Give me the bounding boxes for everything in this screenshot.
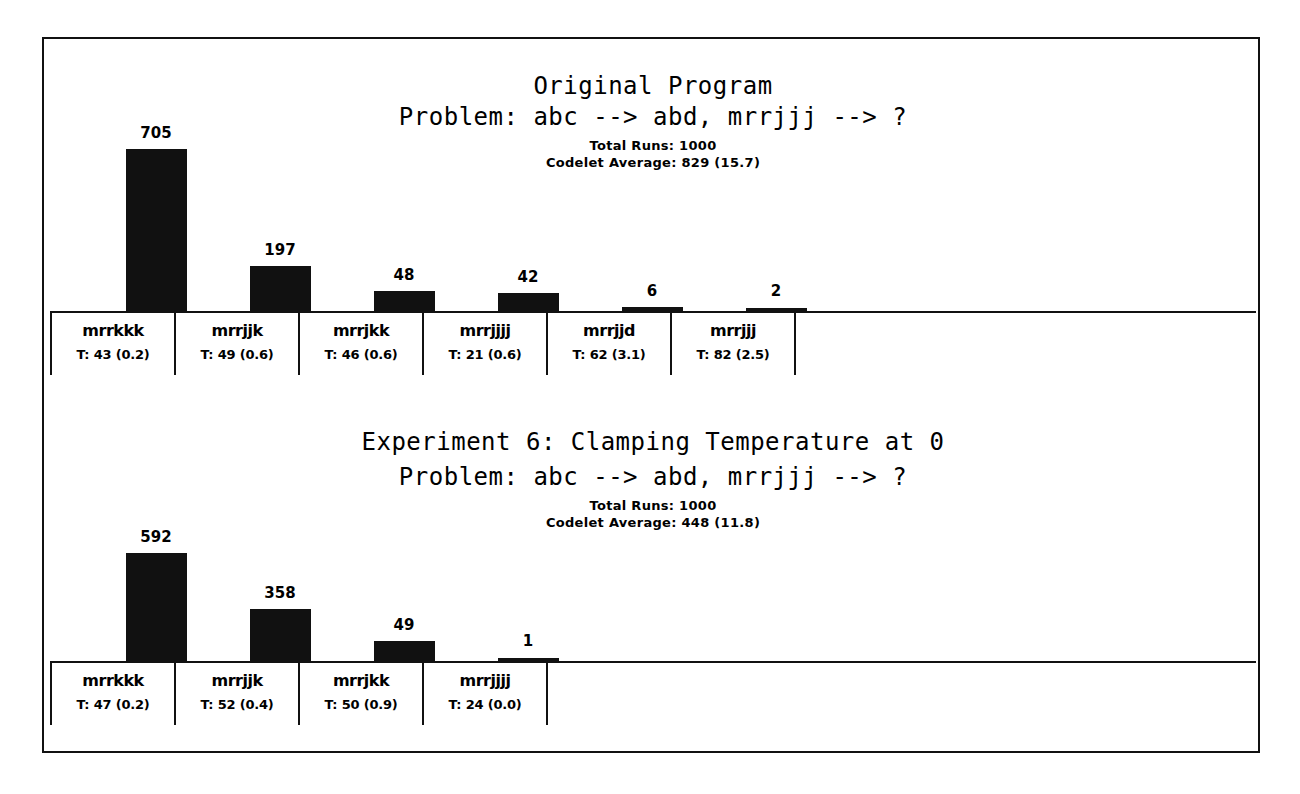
bar-value-label: 49 [344,616,464,634]
bar-value-label: 592 [96,528,216,546]
bar-value-label: 358 [220,584,340,602]
label-cell-answer: mrrjjd [548,321,670,340]
bar [374,291,435,311]
label-cell-temperature: T: 43 (0.2) [52,347,174,362]
label-cell-answer: mrrkkk [52,321,174,340]
bar-value-label: 2 [716,282,836,300]
label-cell-answer: mrrjjk [176,321,298,340]
bar [250,266,311,311]
chart-panel-experiment-6: Experiment 6: Clamping Temperature at 0 … [44,389,1262,751]
label-cell: mrrjjk T: 52 (0.4) [174,663,298,725]
label-cell: mrrjjjj T: 21 (0.6) [422,313,546,375]
label-cell-temperature: T: 47 (0.2) [52,697,174,712]
plot-area-2: 592 358 49 1 [44,389,1262,663]
bar-value-label: 1 [468,632,588,650]
bar [374,641,435,661]
label-cell-answer: mrrjkk [300,671,422,690]
label-cell-answer: mrrjjj [672,321,794,340]
label-cell-temperature: T: 49 (0.6) [176,347,298,362]
label-cell-answer: mrrjjk [176,671,298,690]
label-table-right-edge [794,313,796,375]
label-cell: mrrjjk T: 49 (0.6) [174,313,298,375]
bar-value-label: 197 [220,241,340,259]
label-cell: mrrjjj T: 82 (2.5) [670,313,794,375]
bar-value-label: 42 [468,268,588,286]
label-cell: mrrjjd T: 62 (3.1) [546,313,670,375]
label-cell-answer: mrrkkk [52,671,174,690]
bar [250,609,311,661]
plot-area-1: 705 197 48 42 6 2 [44,39,1262,313]
label-table-right-edge [546,663,548,725]
label-cell: mrrkkk T: 47 (0.2) [50,663,174,725]
bar [498,293,559,311]
label-cell: mrrkkk T: 43 (0.2) [50,313,174,375]
label-cell-temperature: T: 21 (0.6) [424,347,546,362]
label-cell-answer: mrrjjjj [424,321,546,340]
label-cell-answer: mrrjjjj [424,671,546,690]
label-cell-temperature: T: 24 (0.0) [424,697,546,712]
label-cell: mrrjjjj T: 24 (0.0) [422,663,546,725]
chart-panel-original-program: Original Program Problem: abc --> abd, m… [44,39,1262,389]
bar-value-label: 6 [592,282,712,300]
label-cell: mrrjkk T: 50 (0.9) [298,663,422,725]
label-cell-temperature: T: 46 (0.6) [300,347,422,362]
bar-value-label: 705 [96,124,216,142]
label-cell-temperature: T: 52 (0.4) [176,697,298,712]
label-cell-temperature: T: 50 (0.9) [300,697,422,712]
label-table-1: mrrkkk T: 43 (0.2) mrrjjk T: 49 (0.6) mr… [44,313,1262,375]
bar-value-label: 48 [344,266,464,284]
figure-frame: Original Program Problem: abc --> abd, m… [42,37,1260,753]
label-cell-answer: mrrjkk [300,321,422,340]
label-cell: mrrjkk T: 46 (0.6) [298,313,422,375]
bar [126,553,187,661]
label-cell-temperature: T: 82 (2.5) [672,347,794,362]
label-table-2: mrrkkk T: 47 (0.2) mrrjjk T: 52 (0.4) mr… [44,663,1262,725]
bar [126,149,187,311]
label-cell-temperature: T: 62 (3.1) [548,347,670,362]
figure-page: Original Program Problem: abc --> abd, m… [0,0,1300,794]
